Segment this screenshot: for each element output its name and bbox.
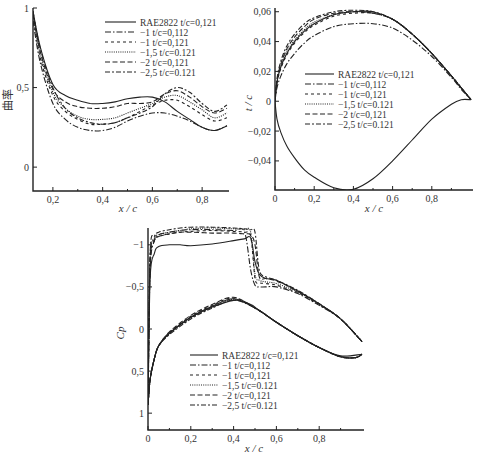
x-tick-label: 0 <box>146 433 151 444</box>
y-tick-label: 0,5 <box>17 82 30 93</box>
y-tick-label: −0,04 <box>248 155 271 166</box>
x-tick-label: 0,8 <box>313 433 326 444</box>
x-tick-label: 0,4 <box>96 194 109 205</box>
legend-label: −1,5 t/c=0.121 <box>140 48 196 58</box>
x-tick-label: 0,8 <box>196 194 209 205</box>
x-tick-label: 0,8 <box>426 193 439 204</box>
series-line <box>33 14 227 119</box>
series-line <box>33 21 227 131</box>
legend-label: −1 t/c=0,112 <box>140 28 189 38</box>
legend-label: −1 t/c=0,121 <box>338 90 387 100</box>
y-tick-label: 0,04 <box>254 36 272 47</box>
legend-label: −2 t/c=0,121 <box>222 391 271 401</box>
legend-label: −1,5 t/c=0.121 <box>338 100 394 110</box>
y-tick-label: 1 <box>24 3 29 14</box>
y-axis-label: t / c <box>242 95 254 112</box>
x-tick-label: 0,2 <box>308 193 321 204</box>
y-axis-label: 曲率 <box>1 89 15 111</box>
series-line <box>33 11 227 124</box>
y-tick-label: 0 <box>24 162 29 173</box>
y-tick-label: 1 <box>139 408 144 419</box>
legend-label: −1 t/c=0,112 <box>222 361 271 371</box>
y-axis-label: Cp <box>114 326 126 339</box>
x-tick-label: 0 <box>273 193 278 204</box>
plot-curves <box>33 11 227 131</box>
y-tick-label: 0 <box>139 324 144 335</box>
x-tick-label: 0,4 <box>227 433 240 444</box>
legend: RAE2822 t/c=0,121−1 t/c=0,112−1 t/c=0,12… <box>105 18 217 78</box>
x-tick-label: 0,4 <box>347 193 360 204</box>
curvature-plot: 0,20,40,60,800,51x / c曲率RAE2822 t/c=0,12… <box>1 3 229 215</box>
y-tick-label: −1 <box>133 239 144 250</box>
x-tick-label: 0,2 <box>47 194 60 205</box>
x-tick-label: 0,6 <box>146 194 159 205</box>
figure-canvas: 0,20,40,60,800,51x / c曲率RAE2822 t/c=0,12… <box>0 0 477 461</box>
legend-label: −2 t/c=0,121 <box>140 58 189 68</box>
legend-label: −1 t/c=0,121 <box>222 371 271 381</box>
legend-label: −2,5 t/c=0.121 <box>140 68 196 78</box>
legend-label: −2,5 t/c=0.121 <box>222 401 278 411</box>
legend-label: −1 t/c=0,121 <box>140 38 189 48</box>
legend-label: −1 t/c=0,112 <box>338 80 387 90</box>
thickness-plot: 00,20,40,60,8−0,04−0,0200,020,040,06x / … <box>242 6 473 214</box>
y-tick-label: 0,5 <box>132 366 145 377</box>
x-tick-label: 0,2 <box>185 433 198 444</box>
x-tick-label: 0,6 <box>270 433 283 444</box>
y-tick-label: −0,5 <box>126 281 144 292</box>
legend-label: −2 t/c=0,121 <box>338 110 387 120</box>
x-tick-label: 0,6 <box>386 193 399 204</box>
legend-label: RAE2822 t/c=0,121 <box>222 351 299 361</box>
legend: RAE2822 t/c=0,121−1 t/c=0,112−1 t/c=0,12… <box>190 351 299 411</box>
y-tick-label: 0,02 <box>254 66 272 77</box>
legend-label: −1,5 t/c=0.121 <box>222 381 278 391</box>
y-tick-label: 0 <box>266 96 271 107</box>
pressure-coefficient-plot: 00,20,40,60,8−1−0,500,51x / cCpRAE2822 t… <box>114 227 364 454</box>
y-tick-label: 0,06 <box>254 6 272 17</box>
legend: RAE2822 t/c=0,121−1 t/c=0,112−1 t/c=0,12… <box>305 70 415 130</box>
legend-label: −2,5 t/c=0.121 <box>338 120 394 130</box>
series-line <box>33 11 227 130</box>
y-tick-label: −0,02 <box>248 126 271 137</box>
x-axis-label: x / c <box>364 202 383 214</box>
legend-label: RAE2822 t/c=0,121 <box>140 18 217 28</box>
legend-label: RAE2822 t/c=0,121 <box>338 70 415 80</box>
x-axis-label: x / c <box>244 442 263 454</box>
x-axis-label: x / c <box>118 202 137 214</box>
